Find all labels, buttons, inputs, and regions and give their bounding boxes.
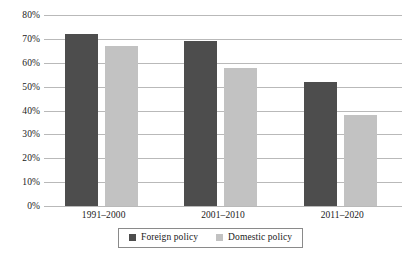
bar-domestic-policy[interactable] [224, 68, 257, 206]
gridline [44, 206, 402, 207]
chart-legend: Foreign policyDomestic policy [118, 228, 303, 248]
bar-group [44, 15, 163, 206]
x-axis-tick-label: 2001–2010 [163, 209, 282, 221]
y-axis-tick-label: 30% [0, 129, 40, 139]
legend-swatch-domestic-policy [216, 234, 223, 241]
legend-item-label: Foreign policy [141, 232, 198, 243]
legend-item[interactable]: Foreign policy [129, 232, 198, 243]
bar-chart: 0%10%20%30%40%50%60%70%80% 1991–20002001… [0, 0, 413, 263]
plot-area [44, 15, 402, 206]
bar-foreign-policy[interactable] [184, 41, 217, 206]
bar-domestic-policy[interactable] [105, 46, 138, 206]
y-axis-tick-label: 50% [0, 82, 40, 92]
legend-item[interactable]: Domestic policy [216, 232, 292, 243]
bar-foreign-policy[interactable] [304, 82, 337, 206]
x-axis-labels: 1991–20002001–20102011–2020 [44, 209, 402, 221]
legend-swatch-foreign-policy [129, 234, 136, 241]
bar-group [283, 15, 402, 206]
x-axis-tick-label: 2011–2020 [283, 209, 402, 221]
y-axis-tick-label: 10% [0, 177, 40, 187]
legend-item-label: Domestic policy [228, 232, 292, 243]
bar-domestic-policy[interactable] [344, 115, 377, 206]
bar-foreign-policy[interactable] [65, 34, 98, 206]
y-axis-tick-label: 0% [0, 201, 40, 211]
y-axis-tick-label: 60% [0, 58, 40, 68]
y-axis-labels: 0%10%20%30%40%50%60%70%80% [0, 15, 40, 206]
bar-group [163, 15, 282, 206]
x-axis-tick-label: 1991–2000 [44, 209, 163, 221]
y-axis-tick-label: 80% [0, 10, 40, 20]
y-axis-tick-label: 40% [0, 106, 40, 116]
y-axis-tick-label: 20% [0, 153, 40, 163]
bar-groups [44, 15, 402, 206]
y-axis-tick-label: 70% [0, 34, 40, 44]
